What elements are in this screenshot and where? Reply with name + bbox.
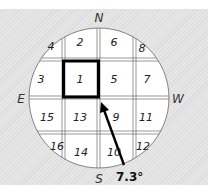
cell-label-14: 14	[74, 146, 88, 159]
cell-label-12: 12	[136, 140, 150, 153]
cell-label-11: 11	[139, 111, 153, 124]
cell-label-3: 3	[38, 73, 45, 86]
cell-label-9: 9	[113, 111, 120, 124]
south-label: S	[95, 172, 103, 186]
cell-label-7: 7	[144, 73, 151, 86]
cell-label-4: 4	[48, 40, 55, 53]
cell-label-16: 16	[50, 140, 64, 153]
east-label: E	[17, 92, 25, 106]
compass-grid-diagram: N S E W 42683157151391116141012 7.3°	[0, 0, 208, 194]
north-label: N	[95, 11, 104, 25]
cell-label-13: 13	[73, 111, 87, 124]
cell-label-6: 6	[111, 36, 118, 49]
cell-label-15: 15	[40, 111, 54, 124]
angle-label: 7.3°	[116, 170, 143, 184]
cell-label-8: 8	[139, 42, 146, 55]
cell-label-5: 5	[111, 73, 118, 86]
cell-label-2: 2	[77, 36, 84, 49]
west-label: W	[172, 92, 185, 106]
cell-label-1: 1	[77, 73, 84, 86]
